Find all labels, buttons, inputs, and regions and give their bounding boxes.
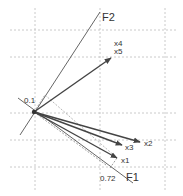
vector-x2 [34,112,140,142]
projection-dashed-line [34,95,45,112]
grid [10,8,178,190]
x5-label: x5 [114,47,123,56]
projection-dashed-line [34,112,106,165]
origin-point [32,110,36,114]
vector-x4-x5 [34,58,111,112]
loading-value-f2: 0.1 [24,96,36,105]
factor-diagram: F2 F1 x4 x5 x2 x3 x1 0.1 0.72 [0,0,183,196]
x1-label: x1 [121,156,130,165]
x3-label: x3 [125,143,134,152]
loading-value-f1: 0.72 [100,174,116,183]
f1-label: F1 [126,171,139,183]
vector-x1 [34,112,117,158]
f2-label: F2 [102,11,115,23]
x2-label: x2 [144,139,153,148]
projection-dashed-line [45,95,117,158]
